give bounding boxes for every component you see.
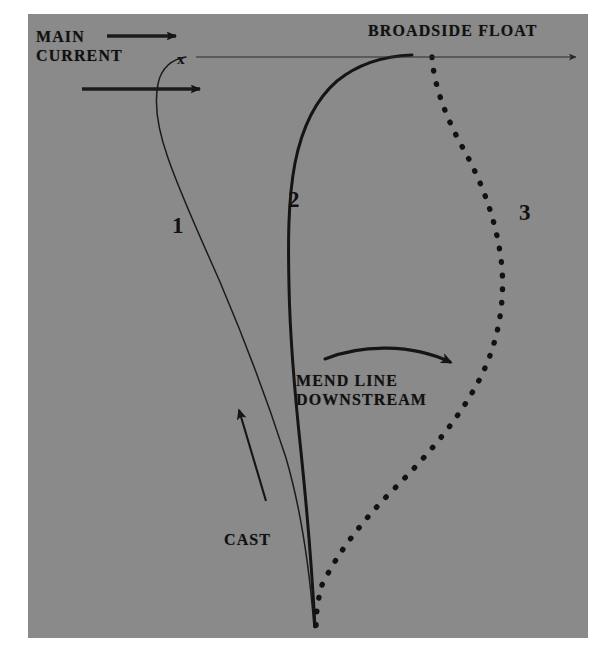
diagram-figure: MAIN CURRENT BROADSIDE FLOAT MEND LINE D…	[0, 0, 604, 654]
label-line-number-1: 1	[172, 212, 184, 239]
label-broadside-float: BROADSIDE FLOAT	[368, 22, 538, 41]
label-cast: CAST	[224, 531, 271, 550]
label-mend-line-downstream: MEND LINE DOWNSTREAM	[296, 372, 427, 410]
diagram-canvas	[0, 0, 604, 654]
label-line-number-3: 3	[519, 199, 531, 226]
fly-marker-icon: x	[177, 51, 185, 69]
label-line-number-2: 2	[288, 186, 300, 213]
label-main-current: MAIN CURRENT	[36, 28, 123, 66]
